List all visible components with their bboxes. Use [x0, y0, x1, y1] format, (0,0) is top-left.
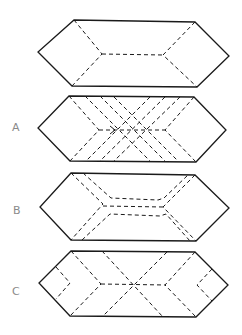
fold-bracket-left [56, 267, 70, 299]
panel-c [39, 251, 228, 317]
fold-line-center [102, 54, 163, 55]
fold-line-diag [85, 96, 150, 161]
fold-line-right [165, 252, 196, 317]
fold-line-lower [82, 214, 190, 241]
folding-diagram [0, 0, 242, 335]
fold-line-upper [83, 173, 188, 200]
fold-line-left [69, 96, 99, 161]
fold-line-left [72, 20, 102, 86]
hexagon-outline [38, 20, 229, 87]
fold-line-left [71, 173, 103, 240]
panel-b [40, 173, 229, 241]
panel-top [38, 20, 229, 87]
fold-bracket-right [197, 269, 212, 301]
fold-line-diag [114, 97, 180, 161]
fold-line-center [103, 206, 163, 207]
fold-line-left [70, 251, 101, 316]
panel-a [38, 96, 226, 162]
fold-line-right [163, 175, 196, 241]
hexagon-outline [39, 251, 228, 317]
fold-line-right [163, 22, 197, 87]
